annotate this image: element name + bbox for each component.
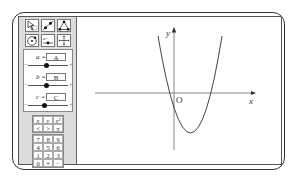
graph-canvas[interactable] (0, 0, 290, 178)
parabola-curve[interactable] (158, 36, 222, 133)
y-axis-label: y (166, 28, 170, 38)
origin-label: O (176, 95, 183, 105)
x-axis-label: x (249, 96, 253, 106)
